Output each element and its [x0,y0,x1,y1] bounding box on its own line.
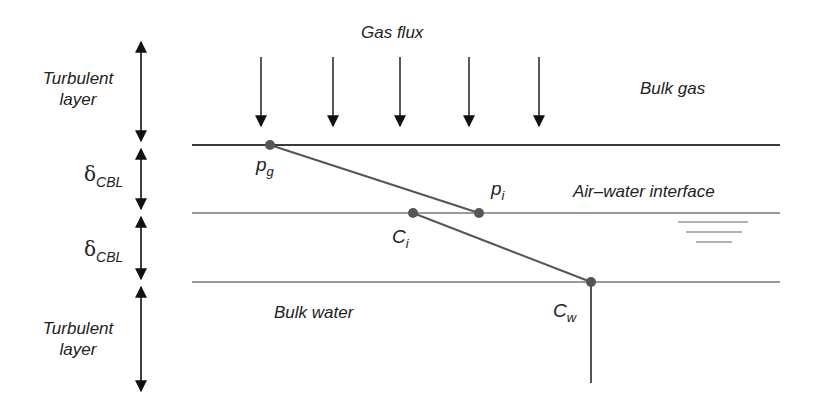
symbol-base: p [491,178,502,199]
pg-label: pg [256,154,274,179]
layer-label-line2: layer [28,339,128,360]
symbol-subscript: g [267,164,274,179]
gas-cbl-thickness-label: δCBL [84,162,123,190]
delta-symbol: δ [84,237,96,261]
delta-symbol: δ [84,162,96,186]
symbol-base: C [392,226,406,247]
ci-label: Ci [392,226,409,251]
layer-label-line1: Turbulent [28,68,128,89]
symbol-base: C [553,300,567,321]
layer-label-line2: layer [28,89,128,110]
cbl-subscript: CBL [96,174,123,190]
symbol-base: p [256,154,267,175]
cbl-subscript: CBL [96,249,123,265]
symbol-subscript: i [406,236,409,251]
point-pi [474,208,484,218]
point-ci [408,208,418,218]
symbol-subscript: w [567,310,576,325]
turbulent-water-layer-label: Turbulent layer [28,318,128,360]
point-cw [586,277,596,287]
symbol-subscript: i [502,188,505,203]
pi-label: pi [491,178,504,203]
water-side-gradient [413,213,591,282]
water-surface-icon [678,222,748,242]
bulk-gas-label: Bulk gas [640,78,705,99]
interface-label: Air–water interface [573,181,715,202]
concentration-profile [265,140,596,383]
gas-flux-title: Gas flux [361,22,423,43]
bulk-water-label: Bulk water [274,302,353,323]
water-cbl-thickness-label: δCBL [84,237,123,265]
gas-side-gradient [270,145,479,213]
cw-label: Cw [553,300,576,325]
layer-label-line1: Turbulent [28,318,128,339]
point-pg [265,140,275,150]
gas-flux-arrows [261,57,539,126]
turbulent-gas-layer-label: Turbulent layer [28,68,128,110]
